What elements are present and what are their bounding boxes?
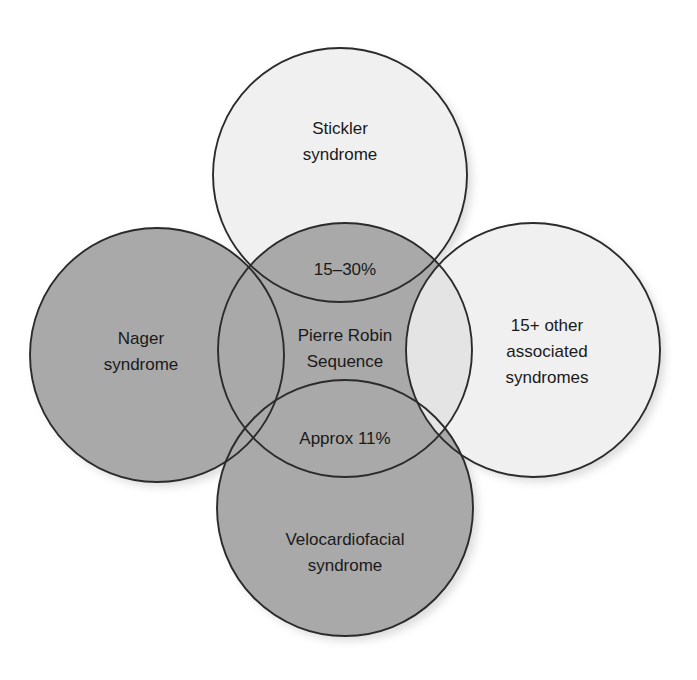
label-nager-line2: syndrome — [104, 355, 179, 374]
label-stickler-line2: syndrome — [303, 145, 378, 164]
label-nager-line1: Nager — [118, 329, 165, 348]
label-overlap-velocardiofacial-percentage: Approx 11% — [299, 429, 390, 448]
label-overlap-stickler-percentage: 15–30% — [314, 260, 376, 279]
label-pierre-robin-line1: Pierre Robin — [298, 326, 393, 345]
label-other-line1: 15+ other — [511, 316, 584, 335]
venn-diagram-canvas: Stickler syndrome Nager syndrome 15+ oth… — [0, 0, 697, 680]
venn-diagram-svg: Stickler syndrome Nager syndrome 15+ oth… — [0, 0, 697, 680]
label-pierre-robin-line2: Sequence — [307, 352, 384, 371]
label-other-line3: syndromes — [505, 368, 588, 387]
label-other-associated-syndromes: 15+ other associated syndromes — [505, 316, 588, 387]
label-stickler-line1: Stickler — [312, 119, 368, 138]
label-velocardiofacial-line1: Velocardiofacial — [285, 530, 404, 549]
label-velocardiofacial-line2: syndrome — [308, 556, 383, 575]
label-other-line2: associated — [506, 342, 587, 361]
